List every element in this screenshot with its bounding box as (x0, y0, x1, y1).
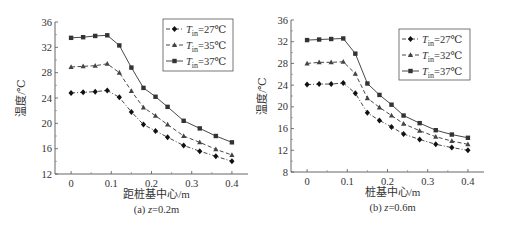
caption-prefix: (b) (369, 202, 384, 214)
data-point (305, 38, 309, 42)
y-tick-label: 20 (42, 118, 53, 129)
legend: Tin=27℃Tin=35℃Tin=37℃ (163, 19, 233, 71)
y-tick-label: 24 (278, 80, 289, 91)
data-point (341, 59, 346, 64)
y-tick-label: 12 (42, 169, 53, 180)
data-point (153, 113, 158, 118)
x-tick-label: 0.1 (341, 176, 354, 187)
data-point (165, 134, 170, 140)
figure: 1216202428323600.10.20.30.4温度/℃距桩基中心/m(a… (0, 0, 508, 232)
caption-value: =0.2m (152, 204, 179, 215)
panel-caption: (b) z=0.6m (369, 202, 415, 214)
series-0 (68, 87, 234, 164)
legend: Tin=27℃Tin=32℃Tin=37℃ (399, 29, 470, 80)
data-point (117, 43, 121, 47)
series-line (71, 90, 232, 161)
data-point (230, 140, 234, 144)
y-tick-label: 16 (278, 123, 289, 134)
data-point (153, 128, 158, 134)
y-tick-label: 28 (278, 58, 289, 69)
legend-label-rest: =37℃ (434, 66, 462, 77)
data-point (449, 138, 454, 143)
legend-label-rest: =27℃ (198, 24, 226, 35)
data-point (181, 143, 186, 149)
data-point (417, 136, 422, 142)
legend-label-rest: =35℃ (198, 40, 226, 51)
caption-prefix: (a) (134, 204, 148, 216)
data-point (229, 158, 234, 164)
data-point (105, 87, 110, 93)
data-point (214, 134, 218, 138)
data-point (389, 124, 394, 130)
x-tick-label: 0.3 (421, 176, 434, 187)
data-point (129, 88, 134, 93)
data-point (389, 102, 393, 106)
data-point (401, 131, 406, 137)
series-line (71, 64, 232, 155)
data-point (181, 133, 186, 138)
x-tick-label: 0.1 (105, 178, 118, 189)
y-tick-label: 12 (278, 145, 289, 156)
data-point (389, 113, 394, 118)
y-tick-label: 36 (42, 17, 53, 28)
data-point (81, 89, 86, 95)
data-point (141, 86, 145, 90)
y-tick-label: 20 (278, 101, 289, 112)
data-point (198, 126, 202, 130)
data-point (213, 153, 218, 159)
x-tick-label: 0.4 (461, 176, 475, 187)
legend-label-rest: =32℃ (434, 50, 462, 61)
data-point (181, 119, 185, 123)
series-0 (304, 80, 470, 153)
data-point (93, 34, 97, 38)
x-tick-label: 0 (304, 176, 309, 187)
legend-marker (408, 69, 412, 73)
x-axis-label: 距桩基中心/m (123, 187, 190, 200)
series-1 (68, 61, 234, 157)
data-point (465, 147, 470, 153)
y-axis-label: 温度/℃ (14, 79, 27, 116)
data-point (141, 105, 146, 110)
y-axis-label: 温度/℃ (255, 77, 268, 114)
data-point (117, 70, 122, 75)
chart-panel-b: 81216202428323600.10.20.30.4温度/℃桩基中心/m(b… (255, 15, 484, 215)
data-point (229, 152, 234, 157)
data-point (68, 90, 73, 96)
data-point (417, 121, 421, 125)
x-tick-label: 0 (68, 178, 73, 189)
y-tick-label: 36 (278, 15, 289, 26)
data-point (197, 148, 202, 154)
data-point (353, 71, 358, 76)
data-point (129, 65, 133, 69)
data-point (401, 113, 405, 117)
legend-marker (172, 59, 176, 63)
data-point (450, 132, 454, 136)
data-point (317, 81, 322, 87)
data-point (377, 105, 382, 110)
chart-panel-a: 1216202428323600.10.20.30.4温度/℃距桩基中心/m(a… (14, 17, 248, 217)
data-point (304, 82, 309, 88)
data-point (69, 36, 73, 40)
data-point (341, 36, 345, 40)
data-point (365, 81, 369, 85)
data-point (105, 61, 110, 66)
data-point (165, 122, 170, 127)
data-point (153, 95, 157, 99)
series-line (307, 83, 468, 150)
x-tick-label: 0.4 (225, 178, 239, 189)
y-tick-label: 28 (42, 67, 53, 78)
panel-caption: (a) z=0.2m (134, 204, 180, 216)
data-point (329, 37, 333, 41)
data-point (165, 105, 169, 109)
data-point (105, 33, 109, 37)
y-tick-label: 24 (42, 93, 53, 104)
data-point (449, 145, 454, 151)
data-point (353, 51, 357, 55)
data-point (93, 89, 98, 95)
caption-value: =0.6m (388, 202, 415, 213)
data-point (377, 117, 382, 123)
y-tick-label: 32 (42, 42, 53, 53)
data-point (466, 136, 470, 140)
y-tick-label: 32 (278, 36, 289, 47)
data-point (81, 35, 85, 39)
